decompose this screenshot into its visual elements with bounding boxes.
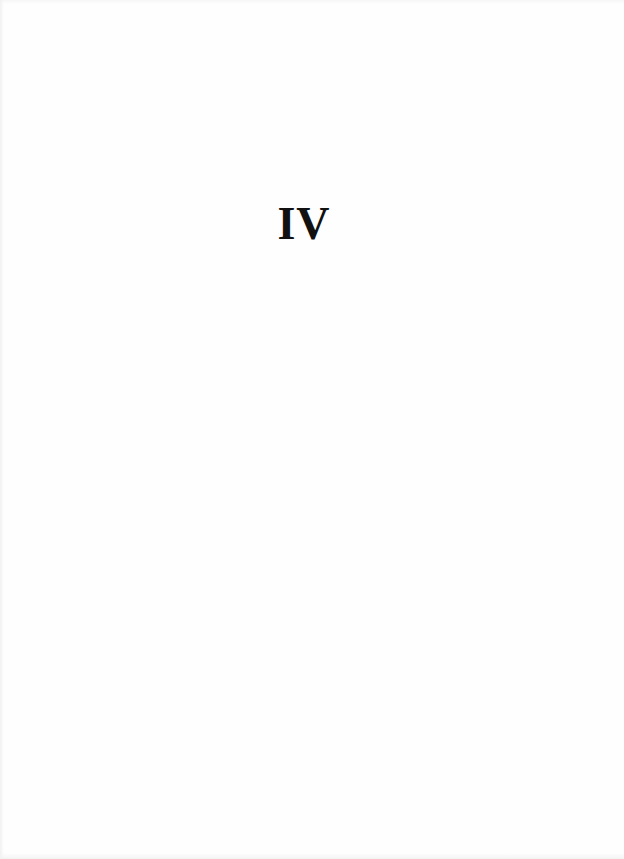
document-page: IV [0,0,624,859]
scan-edge-top [0,0,624,4]
scan-edge-bottom [0,853,624,859]
section-heading: IV [0,196,608,252]
scan-edge-left [0,0,4,859]
